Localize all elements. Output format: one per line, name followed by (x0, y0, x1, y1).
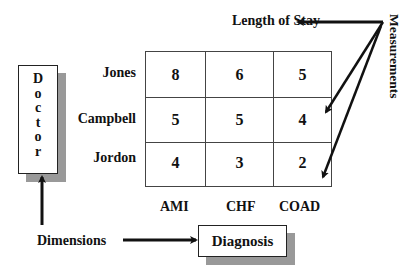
arrow-to-cell-icon (326, 22, 383, 112)
arrows-layer (0, 0, 415, 276)
